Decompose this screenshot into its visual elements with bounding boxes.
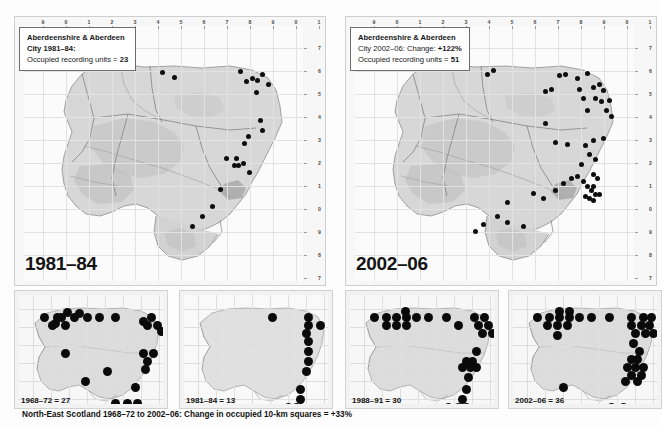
x-tick-label: 0: [626, 19, 629, 25]
y-tick-label: 0: [318, 206, 321, 212]
occurrence-dot: [593, 96, 598, 101]
occurrence-dot: [531, 191, 536, 196]
small-map-label: 1981–84 = 13: [186, 396, 235, 405]
x-tick-label: 7: [226, 19, 229, 25]
occurrence-dot: [599, 99, 604, 104]
y-tick-label: 5: [318, 91, 321, 97]
x-tick-label: 3: [134, 19, 137, 25]
y-tick-mark: [635, 140, 638, 141]
occurrence-dot: [585, 108, 590, 113]
occupied-square-dot: [70, 313, 79, 322]
occurrence-dot: [224, 156, 229, 161]
occupied-square-dot: [629, 339, 638, 348]
occupied-square-dot: [559, 383, 568, 392]
occupied-square-dot: [81, 377, 90, 386]
occurrence-dot: [473, 229, 478, 234]
occurrence-dot: [581, 96, 586, 101]
occupied-square-dot: [621, 377, 630, 386]
occurrence-dot: [601, 88, 606, 93]
small-map-label: 2002–06 = 36: [515, 396, 564, 405]
y-tick-label: 5: [649, 91, 652, 97]
info-line-3: Occupied recording units = 23: [27, 54, 128, 65]
occupied-square-dot: [111, 399, 120, 405]
occurrence-dot: [505, 200, 510, 205]
small-map-1968-72: 1968–72 = 27: [14, 290, 168, 409]
occurrence-dot: [591, 184, 596, 189]
x-tick-mark: [512, 26, 513, 29]
occupied-square-dot: [575, 313, 584, 322]
occupied-square-dot: [48, 321, 57, 330]
x-tick-mark: [650, 26, 651, 29]
occurrence-dot: [210, 204, 215, 209]
y-tick-label: 7: [318, 45, 321, 51]
occurrence-dot: [246, 134, 251, 139]
x-tick-label: 0: [396, 19, 399, 25]
occurrence-dot: [200, 214, 205, 219]
occupied-square-dot: [553, 331, 562, 340]
occurrence-dot: [254, 90, 259, 95]
occurrence-dot: [575, 174, 580, 179]
occupied-square-dot: [631, 329, 640, 338]
occurrence-dot: [495, 214, 500, 219]
occupied-square-dot: [111, 313, 120, 322]
x-tick-mark: [581, 26, 582, 29]
occurrence-dot: [565, 142, 570, 147]
occurrence-dot: [609, 114, 614, 119]
y-tick-label: 4: [649, 114, 652, 120]
occupied-square-dot: [141, 365, 150, 374]
info-line-2: City 1981–84:: [27, 43, 128, 54]
occurrence-dot: [579, 162, 584, 167]
occupied-square-dot: [268, 313, 277, 322]
x-tick-mark: [535, 26, 536, 29]
occurrence-dot: [258, 118, 263, 123]
x-tick-mark: [296, 26, 297, 29]
main-map-1981-84: 9012345678901 76543210987 Aberdeenshire …: [14, 16, 326, 286]
y-tick-mark: [304, 209, 307, 210]
y-tick-mark: [635, 48, 638, 49]
occupied-square-dot: [304, 337, 313, 346]
occurrence-dot: [593, 157, 598, 162]
y-tick-mark: [635, 186, 638, 187]
figure-caption: North-East Scotland 1968–72 to 2002–06: …: [22, 410, 352, 419]
occupied-square-dot: [424, 313, 433, 322]
info-line-3: Occupied recording units = 51: [358, 54, 462, 65]
x-tick-label: 4: [157, 19, 160, 25]
occupied-square-dot: [637, 371, 646, 380]
small-map-1988-91: 1988–91 = 30: [345, 290, 499, 409]
x-tick-label: 2: [442, 19, 445, 25]
x-tick-mark: [604, 26, 605, 29]
occurrence-dot: [241, 161, 246, 166]
occupied-square-dot: [462, 385, 471, 394]
occurrence-dot: [597, 192, 602, 197]
y-tick-label: 1: [649, 183, 652, 189]
x-tick-label: 9: [42, 19, 45, 25]
occurrence-dot: [591, 198, 596, 203]
y-tick-mark: [304, 140, 307, 141]
occurrence-dot: [553, 188, 558, 193]
y-tick-mark: [304, 94, 307, 95]
occupied-square-dot: [464, 373, 473, 382]
y-tick-mark: [635, 71, 638, 72]
y-tick-mark: [304, 186, 307, 187]
y-tick-label: 7: [318, 275, 321, 281]
y-tick-mark: [304, 48, 307, 49]
occupied-square-dot: [157, 327, 164, 336]
y-tick-label: 8: [649, 252, 652, 258]
info-line-1: Aberdeenshire & Aberdeen: [358, 32, 462, 43]
occurrence-dot: [260, 128, 265, 133]
y-tick-mark: [635, 117, 638, 118]
occurrence-dot: [561, 181, 566, 186]
y-tick-mark: [304, 255, 307, 256]
x-tick-mark: [250, 26, 251, 29]
occurrence-dot: [238, 69, 243, 74]
info-box-left: Aberdeenshire & Aberdeen City 1981–84: O…: [19, 27, 136, 71]
occurrence-dot: [255, 78, 260, 83]
x-tick-mark: [319, 26, 320, 29]
x-tick-mark: [227, 26, 228, 29]
y-tick-label: 1: [318, 183, 321, 189]
y-tick-mark: [635, 278, 638, 279]
x-tick-label: 1: [419, 19, 422, 25]
x-tick-label: 0: [65, 19, 68, 25]
occurrence-dot: [591, 85, 596, 90]
x-tick-mark: [181, 26, 182, 29]
